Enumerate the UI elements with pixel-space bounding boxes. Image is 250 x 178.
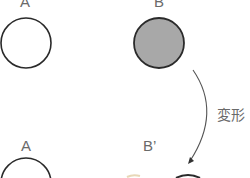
circle-b-top (134, 18, 184, 68)
circle-a-top (1, 18, 51, 68)
label-b-prime-bottom: B’ (143, 138, 156, 153)
circle-a-bottom (1, 158, 51, 178)
label-b-top: B (154, 0, 164, 9)
diagram-canvas (0, 0, 250, 178)
shape-b-prime-right (176, 175, 200, 178)
label-a-top: A (20, 0, 30, 9)
transform-label: 変形 (217, 108, 245, 123)
arrow-head-icon (188, 157, 194, 164)
shape-b-prime-left (127, 175, 140, 177)
label-a-bottom: A (21, 138, 31, 153)
transform-arrow (190, 70, 207, 161)
